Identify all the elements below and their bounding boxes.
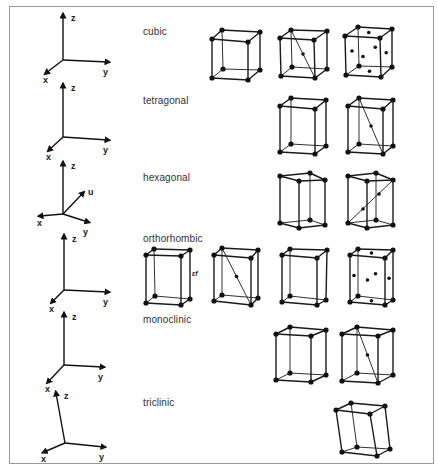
corner-atom bbox=[296, 178, 301, 183]
axes-monoclinic: zyx bbox=[45, 312, 103, 394]
corner-atom bbox=[355, 246, 360, 251]
corner-atom bbox=[323, 97, 328, 102]
corner-atom bbox=[339, 378, 344, 383]
corner-atom bbox=[296, 225, 301, 230]
corner-atom bbox=[211, 252, 216, 257]
axis-label-z: z bbox=[64, 391, 69, 401]
unit-cell-triclinic-simple bbox=[333, 400, 392, 458]
corner-atom bbox=[333, 407, 338, 412]
face-center-atom bbox=[352, 274, 356, 278]
corner-atom bbox=[390, 143, 395, 148]
axis-label-y: y bbox=[83, 227, 88, 237]
corner-atom bbox=[279, 252, 284, 257]
corner-atom bbox=[324, 28, 329, 33]
corner-atom bbox=[339, 331, 344, 336]
face-center-atom bbox=[370, 299, 374, 303]
corner-atom bbox=[209, 75, 214, 80]
axis-label-y: y bbox=[103, 145, 108, 155]
corner-atom bbox=[220, 66, 225, 71]
corner-atom bbox=[375, 333, 380, 338]
corner-atom bbox=[390, 97, 395, 102]
corner-atom bbox=[347, 252, 352, 257]
face-center-atom bbox=[370, 251, 374, 255]
interior-atom bbox=[361, 207, 365, 211]
corner-atom bbox=[356, 141, 361, 146]
corner-atom bbox=[143, 252, 148, 257]
axis-label-y: y bbox=[99, 452, 104, 462]
body-center-atom bbox=[366, 353, 370, 357]
label-monoclinic: monoclinic bbox=[143, 314, 191, 325]
unit-cell-tetragonal-body-centered bbox=[345, 95, 395, 156]
unit-cell-orthorhombic-face-centered bbox=[347, 246, 395, 307]
unit-cell-hexagonal-hcp-interior bbox=[345, 170, 395, 230]
corner-atom bbox=[322, 222, 327, 227]
axis-label-z: z bbox=[71, 13, 76, 23]
axis-label-u: u bbox=[88, 187, 94, 197]
corner-atom bbox=[187, 247, 192, 252]
corner-atom bbox=[390, 222, 395, 227]
corner-atom bbox=[342, 33, 347, 38]
face-center-atom bbox=[374, 272, 378, 276]
corner-atom bbox=[378, 74, 383, 79]
corner-atom bbox=[219, 292, 224, 297]
corner-atom bbox=[312, 106, 317, 111]
corner-atom bbox=[187, 296, 192, 301]
corner-atom bbox=[178, 253, 183, 258]
annotation-mark: ɛf bbox=[192, 270, 198, 277]
corner-atom bbox=[364, 178, 369, 183]
axis-label-x: x bbox=[46, 152, 51, 162]
corner-atom bbox=[323, 372, 328, 377]
face-center-atom bbox=[384, 51, 388, 55]
label-cubic: cubic bbox=[143, 26, 167, 37]
axis-label-y: y bbox=[103, 297, 108, 307]
corner-atom bbox=[219, 27, 224, 32]
corner-atom bbox=[279, 299, 284, 304]
corner-atom bbox=[248, 255, 253, 260]
face-center-atom bbox=[387, 276, 391, 280]
corner-atom bbox=[382, 255, 387, 260]
face-center-atom bbox=[367, 31, 371, 35]
body-center-atom bbox=[301, 52, 305, 56]
corner-atom bbox=[287, 324, 292, 329]
unit-cell-cubic-face-centered bbox=[342, 24, 394, 79]
axis-label-z: z bbox=[71, 83, 76, 93]
corner-atom bbox=[307, 170, 312, 175]
corner-atom bbox=[324, 247, 329, 252]
corner-atom bbox=[273, 377, 278, 382]
corner-atom bbox=[390, 247, 395, 252]
corner-atom bbox=[356, 63, 361, 68]
corner-atom bbox=[367, 411, 372, 416]
corner-atom bbox=[389, 26, 394, 31]
corner-atom bbox=[355, 24, 360, 29]
corner-atom bbox=[314, 302, 319, 307]
corner-atom bbox=[255, 295, 260, 300]
corner-atom bbox=[343, 72, 348, 77]
corner-atom bbox=[143, 300, 148, 305]
corner-atom bbox=[389, 64, 394, 69]
corner-atom bbox=[339, 449, 344, 454]
corner-atom bbox=[273, 331, 278, 336]
corner-atom bbox=[152, 293, 157, 298]
face-center-atom bbox=[373, 45, 377, 49]
label-hexagonal: hexagonal bbox=[143, 172, 190, 183]
corner-atom bbox=[322, 177, 327, 182]
corner-atom bbox=[277, 173, 282, 178]
axes-cubic: zyx bbox=[43, 13, 108, 85]
axis-label-z: z bbox=[72, 234, 77, 244]
corner-atom bbox=[245, 39, 250, 44]
unit-cell-cubic-simple bbox=[209, 27, 262, 82]
corner-atom bbox=[354, 370, 359, 375]
face-center-atom bbox=[350, 49, 354, 53]
corner-atom bbox=[211, 298, 216, 303]
corner-atom bbox=[373, 170, 378, 175]
corner-atom bbox=[277, 35, 282, 40]
corner-atom bbox=[348, 400, 353, 405]
corner-atom bbox=[354, 444, 359, 449]
unit-cell-cubic-body-centered bbox=[277, 27, 329, 80]
label-triclinic: triclinic bbox=[143, 397, 174, 408]
corner-atom bbox=[364, 225, 369, 230]
corner-atom bbox=[345, 103, 350, 108]
corner-atom bbox=[324, 66, 329, 71]
axis-label-y: y bbox=[103, 67, 108, 77]
corner-atom bbox=[257, 29, 262, 34]
